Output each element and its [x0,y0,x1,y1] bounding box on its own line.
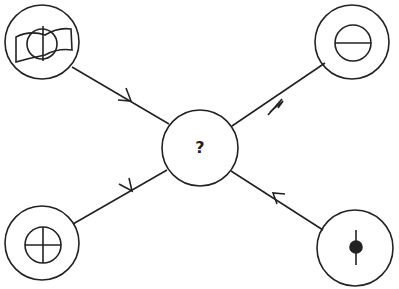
edge-bottom-left [73,170,167,224]
node-bottom-left [5,206,79,280]
arrow-head-icon [119,178,132,191]
edge-top-right [232,63,325,126]
wavy-rectangle-circle-icon [16,26,72,62]
dot-vertical-line-icon [350,230,362,265]
node-top-right [315,5,389,79]
circle-cross-icon [25,227,61,263]
question-mark-label: ? [185,133,215,163]
arrow-head-icon [268,99,282,115]
edge-top-left [72,67,169,124]
edge-bottom-right [231,171,323,230]
circle-horizontal-line-icon [335,25,371,61]
